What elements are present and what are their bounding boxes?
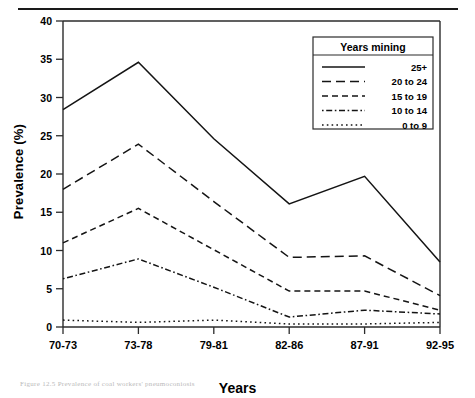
x-tick-label: 73-78: [124, 339, 152, 351]
x-tick-label: 70-73: [49, 339, 77, 351]
x-tick-label: 79-81: [200, 339, 228, 351]
y-tick-marks: [56, 21, 63, 327]
figure-caption: Figure 12.5 Prevalence of coal workers' …: [20, 380, 195, 388]
legend-label-2: 15 to 19: [392, 91, 427, 102]
y-tick-label: 5: [46, 283, 52, 295]
y-tick-label: 0: [46, 321, 52, 333]
chart-figure: Prevalence (%) 40: [0, 14, 475, 364]
legend-label-3: 10 to 14: [392, 105, 428, 116]
legend: Years mining 25+ 20 to 24 15 to 19 10 to…: [313, 37, 433, 131]
figure-page: Prevalence (%) 40: [0, 0, 475, 398]
chart-canvas: 40 35 30 25 20 15 10 5 0 70-73: [0, 14, 475, 364]
x-tick-label: 82-86: [275, 339, 303, 351]
x-tick-label: 87-91: [351, 339, 379, 351]
y-tick-label: 30: [40, 92, 52, 104]
y-tick-labels: 40 35 30 25 20 15 10 5 0: [40, 15, 52, 333]
y-tick-label: 15: [40, 206, 52, 218]
legend-label-4: 0 to 9: [402, 120, 427, 131]
series-line-2: [63, 208, 440, 310]
x-tick-labels: 70-73 73-78 79-81 82-86 87-91 92-95: [49, 339, 454, 351]
legend-label-0: 25+: [411, 62, 428, 73]
series-line-4: [63, 320, 440, 324]
page-top-rule: [18, 8, 458, 10]
legend-title: Years mining: [340, 41, 405, 53]
x-tick-label: 92-95: [426, 339, 454, 351]
series-line-1: [63, 144, 440, 295]
x-tick-marks: [63, 327, 440, 334]
y-tick-label: 40: [40, 15, 52, 27]
legend-label-1: 20 to 24: [392, 76, 428, 87]
series-line-3: [63, 259, 440, 317]
y-tick-label: 35: [40, 53, 52, 65]
y-tick-label: 20: [40, 168, 52, 180]
y-tick-label: 25: [40, 130, 52, 142]
y-tick-label: 10: [40, 245, 52, 257]
